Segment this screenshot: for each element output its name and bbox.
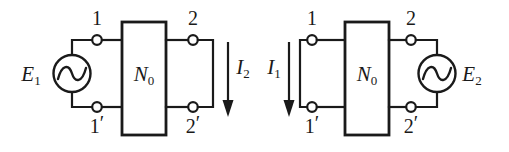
label-source-E1: E1 <box>20 62 40 88</box>
label-terminal-1p: 1′ <box>305 112 319 137</box>
terminal-dot-2 <box>406 35 416 45</box>
arrow-head <box>284 100 295 117</box>
label-terminal-2p: 2′ <box>186 112 200 137</box>
label-terminal-2: 2 <box>406 7 416 29</box>
circuit-diagram-canvas: 1 1′ 2 2′ N0 E1 I2 1 1′ 2 2′ N0 I1 E2 <box>0 0 509 152</box>
terminal-dot-2 <box>188 35 198 45</box>
label-terminal-2: 2 <box>188 7 198 29</box>
label-terminal-1: 1 <box>92 7 102 29</box>
arrow-head <box>223 100 234 117</box>
terminal-dot-1p <box>92 102 102 112</box>
wire-left-source-top <box>72 40 92 55</box>
label-terminal-1: 1 <box>307 7 317 29</box>
label-source-E2: E2 <box>461 62 481 88</box>
terminal-dot-2p <box>406 102 416 112</box>
terminal-dot-1 <box>92 35 102 45</box>
wire-right-source-bottom <box>416 92 437 107</box>
ac-source-E2 <box>419 55 456 92</box>
terminal-dot-1p <box>307 102 317 112</box>
label-terminal-1p: 1′ <box>90 112 104 137</box>
label-current-I2: I2 <box>235 55 250 81</box>
terminal-dot-2p <box>188 102 198 112</box>
wire-right-input-loop <box>300 40 307 107</box>
label-terminal-2p: 2′ <box>404 112 418 137</box>
two-port-network-figure: 1 1′ 2 2′ N0 E1 I2 1 1′ 2 2′ N0 I1 E2 <box>0 0 509 152</box>
ac-source-E1 <box>54 55 91 92</box>
wire-right-source-top <box>416 40 437 55</box>
terminal-dot-1 <box>307 35 317 45</box>
current-arrow-I2 <box>223 42 234 117</box>
wire-left-output-loop <box>198 40 213 107</box>
label-current-I1: I1 <box>266 55 281 81</box>
current-arrow-I1 <box>284 42 295 117</box>
wire-left-source-bottom <box>72 92 92 107</box>
